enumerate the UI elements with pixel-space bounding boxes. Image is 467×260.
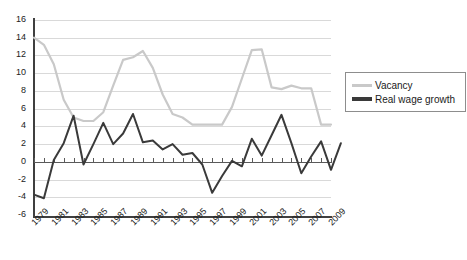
legend-swatch-real-wage-growth — [352, 97, 372, 101]
legend-item-real-wage-growth[interactable]: Real wage growth — [352, 92, 458, 106]
legend-label-vacancy: Vacancy — [375, 80, 413, 91]
plot-lines — [0, 0, 467, 260]
series-line-real-wage-growth — [34, 114, 341, 198]
chart-legend: Vacancy Real wage growth — [345, 72, 466, 112]
legend-swatch-vacancy — [352, 84, 372, 87]
legend-label-real-wage-growth: Real wage growth — [375, 94, 455, 105]
legend-item-vacancy[interactable]: Vacancy — [352, 78, 458, 92]
series-line-vacancy — [34, 38, 331, 125]
chart-figure: -6-4-20246810121416 19791981198319851987… — [0, 0, 467, 260]
